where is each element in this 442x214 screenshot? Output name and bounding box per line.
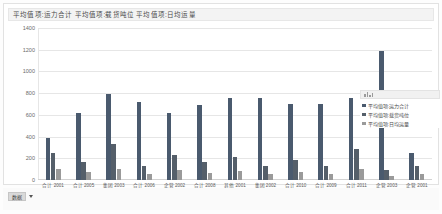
- chart-legend[interactable]: 平均值项:运力合计平均值项:载货吨位平均值项:日均运量: [360, 90, 440, 128]
- bar-group[interactable]: [318, 28, 333, 180]
- bar[interactable]: [197, 105, 202, 180]
- bar-group[interactable]: [197, 28, 212, 180]
- bar[interactable]: [51, 153, 56, 180]
- bar[interactable]: [329, 174, 334, 180]
- bar[interactable]: [81, 162, 86, 180]
- bar[interactable]: [299, 172, 304, 180]
- bar[interactable]: [142, 166, 147, 180]
- bar-group[interactable]: [258, 28, 273, 180]
- bar[interactable]: [359, 169, 364, 180]
- legend-item-label: 平均值项:运力合计: [368, 102, 409, 109]
- bar[interactable]: [263, 166, 268, 180]
- bar[interactable]: [137, 102, 142, 180]
- bar[interactable]: [46, 138, 51, 180]
- bar[interactable]: [172, 155, 177, 180]
- data-button[interactable]: 数据: [8, 192, 33, 201]
- legend-item[interactable]: 平均值项:日均运量: [360, 119, 440, 128]
- bottom-toolbar: 数据: [3, 188, 439, 210]
- bar[interactable]: [349, 98, 354, 181]
- y-axis-tick-label: 1400: [23, 25, 35, 31]
- chevron-down-icon[interactable]: [29, 195, 33, 198]
- bar[interactable]: [147, 174, 152, 181]
- chart-icon: [364, 92, 373, 97]
- legend-item-label: 平均值项:日均运量: [368, 120, 409, 127]
- y-axis-tick-label: 200: [26, 155, 35, 161]
- bar[interactable]: [76, 113, 81, 180]
- chart-title-band: 平均值项:运力合计 平均值项:载货吨位 平均值项:日均运量: [8, 8, 434, 21]
- y-axis-line: [38, 28, 39, 180]
- bar[interactable]: [233, 157, 238, 180]
- legend-item-label: 平均值项:载货吨位: [368, 111, 409, 118]
- bar[interactable]: [420, 174, 425, 180]
- bar-group[interactable]: [167, 28, 182, 180]
- y-axis-tick-label: 0: [32, 177, 35, 183]
- y-axis-tick-label: 600: [26, 112, 35, 118]
- bar[interactable]: [86, 172, 91, 180]
- bar[interactable]: [111, 144, 116, 180]
- page-title: 平均值项:运力合计 平均值项:载货吨位 平均值项:日均运量: [9, 9, 196, 20]
- bar[interactable]: [354, 149, 359, 180]
- legend-header: [360, 90, 440, 99]
- legend-swatch: [362, 113, 366, 117]
- chart-widget: 平均值项:运力合计 平均值项:载货吨位 平均值项:日均运量 0200400600…: [0, 0, 442, 214]
- bar[interactable]: [288, 104, 293, 180]
- bar[interactable]: [238, 171, 243, 180]
- bar[interactable]: [228, 98, 233, 181]
- bar-group[interactable]: [76, 28, 91, 180]
- bar-group[interactable]: [137, 28, 152, 180]
- bar-group[interactable]: [46, 28, 61, 180]
- bar-group[interactable]: [288, 28, 303, 180]
- legend-item[interactable]: 平均值项:载货吨位: [360, 110, 440, 119]
- bar[interactable]: [389, 176, 394, 180]
- bar[interactable]: [293, 160, 298, 180]
- bar-group[interactable]: [106, 28, 121, 180]
- bar[interactable]: [117, 169, 122, 180]
- bar[interactable]: [258, 98, 263, 181]
- bar[interactable]: [167, 113, 172, 180]
- bar[interactable]: [409, 153, 414, 180]
- bar[interactable]: [202, 162, 207, 180]
- y-axis-tick-label: 1200: [23, 47, 35, 53]
- bar[interactable]: [208, 173, 213, 180]
- bar[interactable]: [318, 104, 323, 180]
- chart-frame: 平均值项:运力合计 平均值项:载货吨位 平均值项:日均运量 0200400600…: [3, 3, 439, 185]
- y-axis-tick-label: 800: [26, 90, 35, 96]
- legend-item[interactable]: 平均值项:运力合计: [360, 101, 440, 110]
- data-button-label: 数据: [8, 192, 26, 201]
- legend-swatch: [362, 104, 366, 108]
- bar[interactable]: [324, 166, 329, 180]
- bar[interactable]: [415, 166, 420, 180]
- bar[interactable]: [384, 170, 389, 180]
- bar[interactable]: [106, 94, 111, 180]
- bar-group[interactable]: [228, 28, 243, 180]
- bar[interactable]: [56, 169, 61, 180]
- bar[interactable]: [268, 174, 273, 180]
- y-axis-tick-label: 1000: [23, 68, 35, 74]
- legend-swatch: [362, 122, 366, 126]
- y-axis-tick-label: 400: [26, 134, 35, 140]
- bar[interactable]: [177, 170, 182, 180]
